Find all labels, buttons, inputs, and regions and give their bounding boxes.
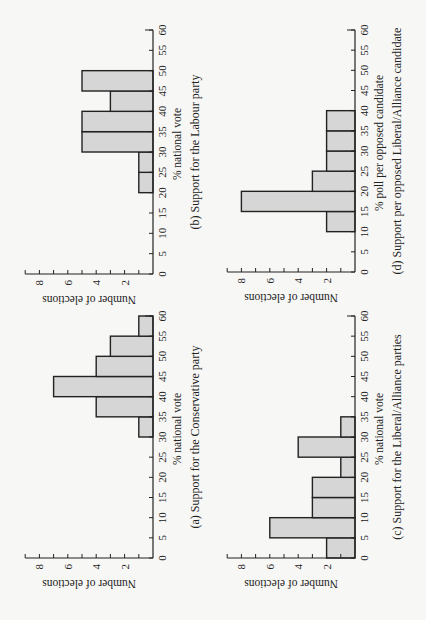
x-tick-label: 40 xyxy=(358,105,370,117)
x-tick-label: 5 xyxy=(156,250,168,256)
histogram-bar xyxy=(270,518,355,538)
x-axis-label: % poll per opposed candidate xyxy=(373,75,386,211)
x-tick-label: 25 xyxy=(358,165,370,177)
x-axis-label: % national vote xyxy=(171,393,183,465)
x-tick-label: 20 xyxy=(358,471,370,483)
histogram-figure: 0510152025303540455055602468Number of el… xyxy=(0,0,426,620)
x-tick-label: 15 xyxy=(358,206,370,218)
x-tick-label: 5 xyxy=(358,249,370,255)
histogram-bar xyxy=(298,437,355,457)
panel-caption: (c) Support for the Liberal/Alliance par… xyxy=(390,334,404,540)
panel-caption: (a) Support for the Conservative party xyxy=(188,346,202,529)
x-tick-label: 40 xyxy=(358,391,370,403)
x-tick-label: 30 xyxy=(156,146,168,158)
histogram-bar xyxy=(327,151,355,171)
histogram-bar xyxy=(82,111,153,131)
histogram-bar xyxy=(312,498,355,518)
x-tick-label: 45 xyxy=(156,85,168,97)
x-tick-label: 45 xyxy=(358,85,370,97)
x-tick-label: 10 xyxy=(156,512,168,524)
y-tick-label: 2 xyxy=(119,564,131,570)
x-tick-label: 55 xyxy=(156,330,168,342)
x-tick-label: 55 xyxy=(358,44,370,56)
y-tick-label: 2 xyxy=(321,278,333,284)
panel-caption: (d) Support per opposed Liberal/Alliance… xyxy=(390,28,404,275)
x-tick-label: 60 xyxy=(358,24,370,36)
y-tick-label: 6 xyxy=(62,280,74,286)
histogram-bar xyxy=(139,152,153,172)
histogram-bar xyxy=(241,191,355,211)
y-tick-label: 2 xyxy=(119,280,131,286)
x-tick-label: 15 xyxy=(156,207,168,219)
panel-d: 0510152025303540455055602468Number of el… xyxy=(227,24,404,304)
x-tick-label: 55 xyxy=(156,44,168,56)
histogram-bar xyxy=(139,316,153,336)
x-tick-label: 20 xyxy=(156,187,168,199)
x-tick-label: 25 xyxy=(156,451,168,463)
y-tick-label: 4 xyxy=(292,278,304,284)
y-axis-label: Number of elections xyxy=(42,578,136,590)
x-tick-label: 5 xyxy=(156,535,168,541)
x-tick-label: 30 xyxy=(358,431,370,443)
x-tick-label: 10 xyxy=(156,227,168,239)
histogram-bar xyxy=(327,131,355,151)
x-tick-label: 45 xyxy=(156,371,168,383)
x-tick-label: 60 xyxy=(156,310,168,322)
x-tick-label: 50 xyxy=(156,350,168,362)
y-tick-label: 6 xyxy=(264,564,276,570)
x-tick-label: 0 xyxy=(156,555,168,561)
x-tick-label: 0 xyxy=(156,271,168,277)
x-tick-label: 10 xyxy=(358,226,370,238)
x-tick-label: 15 xyxy=(358,492,370,504)
y-tick-label: 8 xyxy=(235,278,247,284)
x-axis-label: % national vote xyxy=(171,108,183,180)
x-tick-label: 30 xyxy=(156,431,168,443)
x-tick-label: 0 xyxy=(358,555,370,561)
y-tick-label: 6 xyxy=(264,278,276,284)
histogram-bar xyxy=(82,132,153,152)
x-tick-label: 30 xyxy=(358,145,370,157)
x-tick-label: 60 xyxy=(358,310,370,322)
histogram-bar xyxy=(96,356,153,376)
histogram-bar xyxy=(312,477,355,497)
x-tick-label: 5 xyxy=(358,535,370,541)
y-tick-label: 8 xyxy=(33,280,45,286)
histogram-bar xyxy=(54,377,153,397)
y-tick-label: 8 xyxy=(33,564,45,570)
x-tick-label: 25 xyxy=(358,451,370,463)
y-tick-label: 8 xyxy=(235,564,247,570)
x-tick-label: 55 xyxy=(358,330,370,342)
x-tick-label: 25 xyxy=(156,166,168,178)
y-axis-label: Number of elections xyxy=(244,292,338,304)
x-tick-label: 50 xyxy=(156,65,168,77)
x-tick-label: 40 xyxy=(156,391,168,403)
x-tick-label: 50 xyxy=(358,350,370,362)
y-tick-label: 4 xyxy=(90,564,102,570)
x-tick-label: 20 xyxy=(156,471,168,483)
histogram-bar xyxy=(139,417,153,437)
histogram-bar xyxy=(327,212,355,232)
y-tick-label: 2 xyxy=(321,564,333,570)
histogram-bar xyxy=(312,171,355,191)
panel-a: 0510152025303540455055602468Number of el… xyxy=(25,310,202,590)
histogram-bar xyxy=(327,111,355,131)
y-tick-label: 4 xyxy=(292,564,304,570)
histogram-bar xyxy=(110,91,153,111)
x-tick-label: 60 xyxy=(156,24,168,36)
x-tick-label: 20 xyxy=(358,185,370,197)
y-tick-label: 6 xyxy=(62,564,74,570)
figure-rotated: 0510152025303540455055602468Number of el… xyxy=(0,0,426,620)
panel-caption: (b) Support for the Labour party xyxy=(188,75,202,230)
histogram-bar xyxy=(96,397,153,417)
x-tick-label: 40 xyxy=(156,105,168,117)
histogram-bar xyxy=(139,172,153,192)
histogram-bar xyxy=(341,457,355,477)
x-axis-label: % national vote xyxy=(373,393,385,465)
x-tick-label: 15 xyxy=(156,492,168,504)
panel-b: 0510152025303540455055602468Number of el… xyxy=(25,24,202,306)
panel-c: 0510152025303540455055602468Number of el… xyxy=(227,310,404,590)
x-tick-label: 35 xyxy=(156,126,168,138)
x-tick-label: 45 xyxy=(358,371,370,383)
x-tick-label: 35 xyxy=(156,411,168,423)
y-axis-label: Number of elections xyxy=(42,294,136,306)
